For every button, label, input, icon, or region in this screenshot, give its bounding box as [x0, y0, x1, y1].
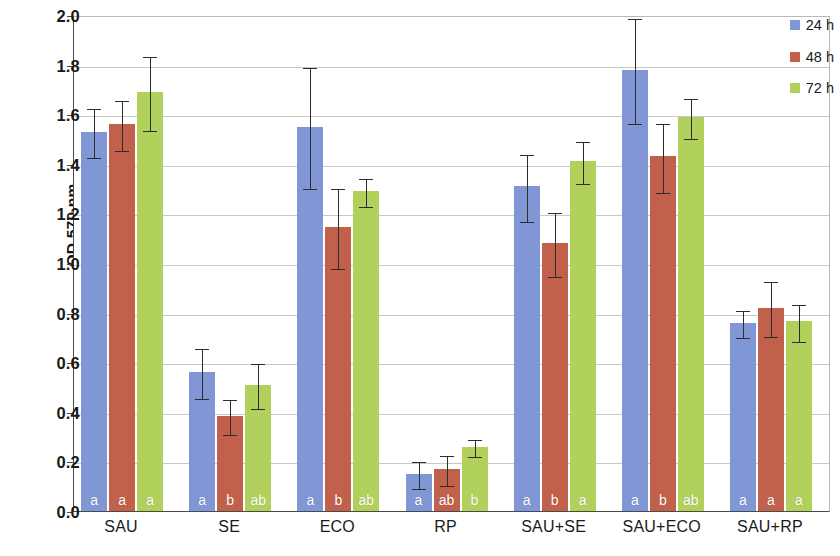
- significance-letter: ab: [353, 493, 379, 507]
- bar-sau-72h: a: [137, 92, 163, 511]
- error-bar-cap-upper: [251, 364, 265, 365]
- error-bar-cap-upper: [656, 124, 670, 125]
- y-axis-tick-label: 0.8: [20, 305, 80, 324]
- x-axis-tick-label-sau-rp: SAU+RP: [737, 518, 803, 536]
- error-bar-cap-upper: [143, 57, 157, 58]
- error-bar: [583, 142, 584, 184]
- significance-letter: b: [542, 493, 568, 507]
- bar-sau-eco-24h: a: [622, 70, 648, 511]
- error-bar-cap-upper: [520, 155, 534, 156]
- significance-letter: ab: [245, 493, 271, 507]
- error-bar: [635, 19, 636, 123]
- error-bar-cap-upper: [684, 99, 698, 100]
- gridline: [74, 265, 829, 266]
- error-bar: [743, 311, 744, 338]
- bar-chart: OD 570 nm aaaababababaabbabaababaaa 2.01…: [0, 0, 840, 556]
- significance-letter: a: [137, 493, 163, 507]
- error-bar-cap-lower: [412, 489, 426, 490]
- error-bar-cap-upper: [412, 462, 426, 463]
- x-axis-tick-label-eco: ECO: [320, 518, 355, 536]
- error-bar-cap-upper: [440, 456, 454, 457]
- error-bar: [202, 349, 203, 399]
- legend-item-72h: 72 h: [790, 81, 834, 96]
- y-axis-tick-label: 0.0: [20, 503, 80, 522]
- gridline: [74, 215, 829, 216]
- gridline: [74, 67, 829, 68]
- error-bar-cap-upper: [223, 400, 237, 401]
- legend-swatch-icon: [790, 83, 800, 93]
- gridline: [74, 364, 829, 365]
- error-bar: [527, 155, 528, 222]
- error-bar: [799, 305, 800, 342]
- significance-letter: a: [758, 493, 784, 507]
- y-axis-tick-label: 1.6: [20, 106, 80, 125]
- y-axis-tick-label: 1.8: [20, 57, 80, 76]
- legend-item-48h: 48 h: [790, 50, 834, 65]
- error-bar-cap-upper: [331, 189, 345, 190]
- error-bar-cap-lower: [656, 193, 670, 194]
- error-bar-cap-upper: [303, 68, 317, 69]
- error-bar-cap-lower: [684, 139, 698, 140]
- x-axis-tick-label-sau-se: SAU+SE: [521, 518, 586, 536]
- x-axis-tick-label-sau-eco: SAU+ECO: [623, 518, 701, 536]
- bar-sau-se-24h: a: [514, 186, 540, 511]
- legend-label: 72 h: [806, 81, 834, 96]
- error-bar-cap-lower: [736, 338, 750, 339]
- legend-label: 48 h: [806, 50, 834, 65]
- error-bar: [338, 189, 339, 268]
- significance-letter: a: [189, 493, 215, 507]
- error-bar: [150, 57, 151, 131]
- bar-sau-24h: a: [81, 132, 107, 511]
- significance-letter: b: [462, 493, 488, 507]
- y-axis-tick-label: 0.4: [20, 404, 80, 423]
- legend-swatch-icon: [790, 20, 800, 30]
- error-bar: [230, 400, 231, 435]
- error-bar: [94, 109, 95, 159]
- error-bar: [419, 462, 420, 489]
- y-axis-tick-label: 0.2: [20, 453, 80, 472]
- error-bar-cap-lower: [520, 222, 534, 223]
- error-bar-cap-lower: [143, 131, 157, 132]
- error-bar-cap-lower: [764, 337, 778, 338]
- error-bar: [310, 68, 311, 190]
- error-bar: [663, 124, 664, 193]
- error-bar-cap-lower: [115, 151, 129, 152]
- significance-letter: a: [514, 493, 540, 507]
- bar-sau-eco-72h: ab: [678, 117, 704, 511]
- significance-letter: a: [297, 493, 323, 507]
- bar-sau-eco-48h: b: [650, 156, 676, 511]
- error-bar: [122, 101, 123, 151]
- error-bar-cap-lower: [576, 184, 590, 185]
- legend: 24 h48 h72 h: [790, 18, 834, 96]
- significance-letter: ab: [434, 493, 460, 507]
- error-bar-cap-lower: [87, 158, 101, 159]
- error-bar: [258, 364, 259, 409]
- significance-letter: ab: [678, 493, 704, 507]
- error-bar-cap-upper: [628, 19, 642, 20]
- significance-letter: a: [406, 493, 432, 507]
- error-bar: [691, 99, 692, 139]
- gridline: [74, 166, 829, 167]
- bar-sau-se-72h: a: [570, 161, 596, 511]
- bar-sau-se-48h: b: [542, 243, 568, 511]
- significance-letter: a: [622, 493, 648, 507]
- error-bar-cap-lower: [223, 435, 237, 436]
- error-bar-cap-upper: [736, 311, 750, 312]
- significance-letter: a: [109, 493, 135, 507]
- error-bar-cap-lower: [792, 342, 806, 343]
- legend-swatch-icon: [790, 52, 800, 62]
- error-bar-cap-lower: [303, 189, 317, 190]
- gridline: [74, 315, 829, 316]
- error-bar-cap-lower: [628, 124, 642, 125]
- error-bar: [475, 440, 476, 457]
- significance-letter: b: [217, 493, 243, 507]
- error-bar-cap-upper: [576, 142, 590, 143]
- y-axis-tick-label: 1.4: [20, 156, 80, 175]
- error-bar-cap-lower: [468, 457, 482, 458]
- bar-sau-48h: a: [109, 124, 135, 511]
- error-bar-cap-lower: [251, 409, 265, 410]
- bar-sau-rp-72h: a: [786, 321, 812, 511]
- y-axis-tick-label: 1.2: [20, 205, 80, 224]
- error-bar-cap-lower: [195, 399, 209, 400]
- error-bar-cap-lower: [359, 207, 373, 208]
